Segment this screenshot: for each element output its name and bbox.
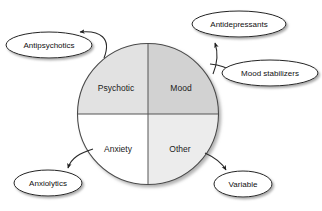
callout-antipsychotics[interactable]: Antipsychotics	[6, 32, 92, 58]
callout-label-antidepressants: Antidepressants	[210, 20, 267, 29]
callout-label-antipsychotics: Antipsychotics	[23, 41, 74, 50]
callout-label-variable: Variable	[229, 180, 258, 189]
connector-mood-to-antidepressants	[213, 43, 217, 74]
quadrant-label-mood: Mood	[170, 83, 192, 93]
quadrant-label-other: Other	[169, 144, 190, 154]
callout-mood-stabilizers[interactable]: Mood stabilizers	[222, 60, 318, 86]
callout-label-mood-stabilizers: Mood stabilizers	[241, 69, 299, 78]
quadrant-label-anxiety: Anxiety	[104, 144, 133, 154]
connector-other-to-variable	[205, 153, 226, 170]
category-circle	[78, 44, 219, 185]
quadrant-label-psychotic: Psychotic	[98, 83, 135, 93]
quadrant-mood[interactable]	[148, 44, 219, 115]
callout-antidepressants[interactable]: Antidepressants	[192, 11, 286, 37]
diagram-root: Psychotic Mood Anxiety Other Antipsychot…	[0, 0, 322, 211]
callout-anxiolytics[interactable]: Anxiolytics	[14, 170, 82, 196]
quadrant-psychotic[interactable]	[78, 44, 149, 115]
quadrant-circle-diagram: Psychotic Mood Anxiety Other Antipsychot…	[0, 0, 322, 211]
callout-label-anxiolytics: Anxiolytics	[29, 179, 67, 188]
callout-variable[interactable]: Variable	[214, 171, 272, 197]
